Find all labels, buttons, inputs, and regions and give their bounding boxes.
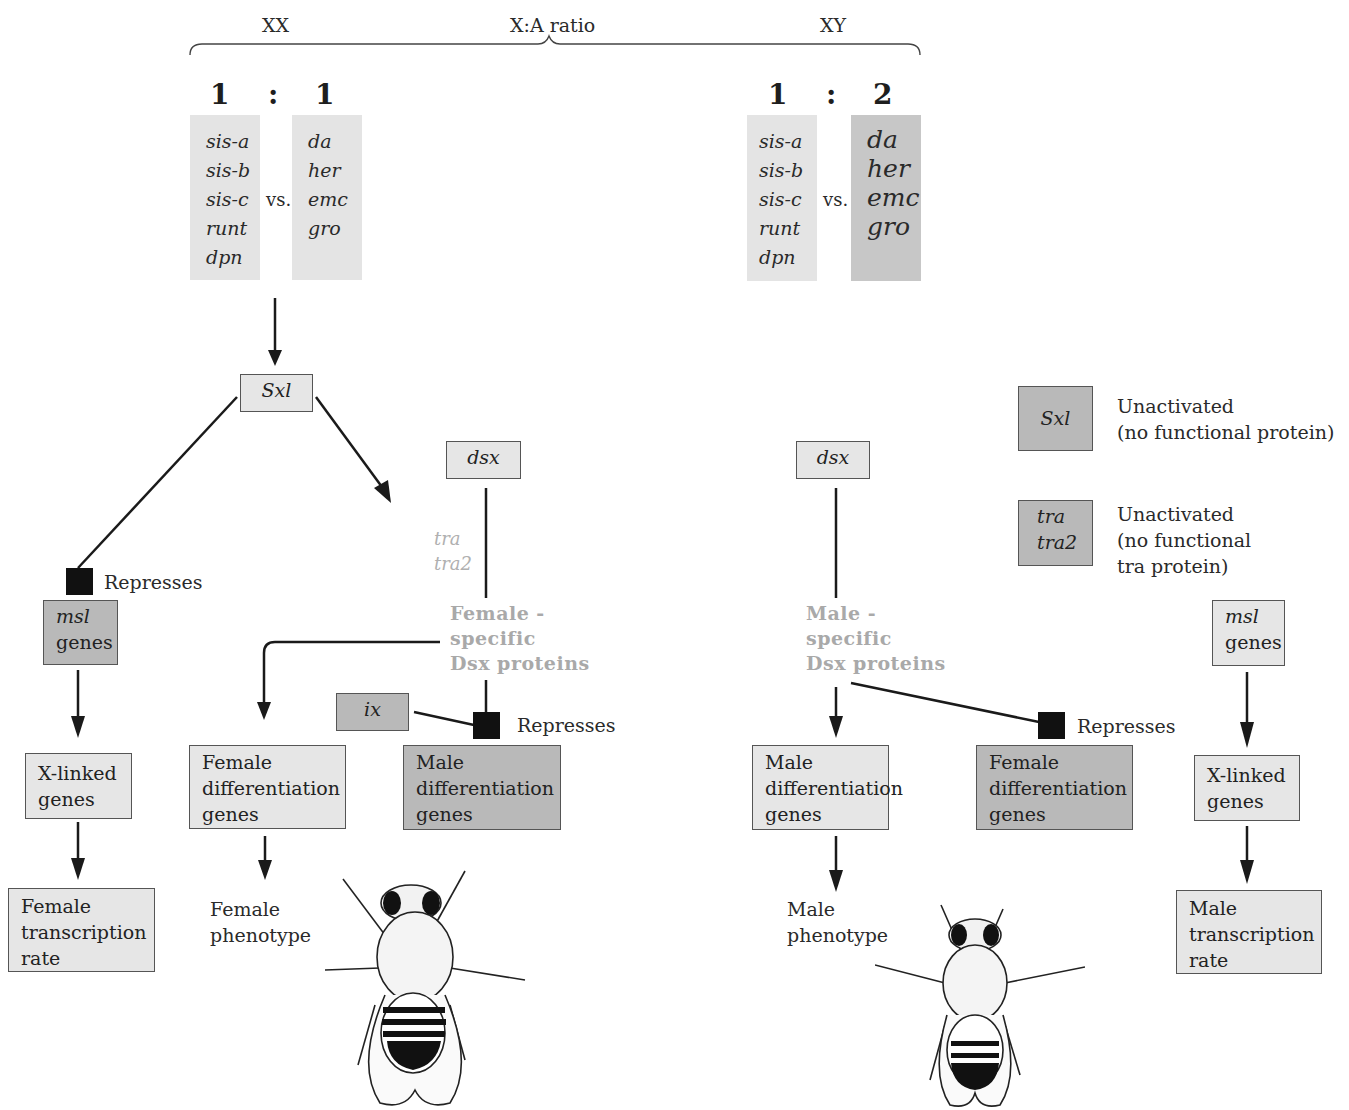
female-transcription-rate-box: Female transcription rate	[8, 888, 155, 972]
ratio-brace	[190, 36, 920, 55]
female-vs: vs.	[266, 189, 291, 210]
ratio-label: X:A ratio	[510, 14, 595, 36]
male-transcription-rate-box: Male transcription rate	[1176, 890, 1322, 974]
male-x-linked-genes-box: X-linked genes	[1194, 755, 1300, 821]
male-path-female-differentiation-genes-box: Female differentiation genes	[976, 745, 1133, 830]
repress-square-icon	[473, 712, 500, 739]
legend-tra-text: Unactivated (no functional tra protein)	[1117, 501, 1251, 579]
male-fly-icon	[875, 895, 1085, 1110]
sxl-box: Sxl	[240, 374, 313, 412]
female-x-linked-genes-box: X-linked genes	[25, 753, 132, 819]
represses-label-msl: Represses	[104, 569, 203, 595]
female-dsx-box: dsx	[446, 441, 521, 479]
female-ratio-left: 1	[210, 78, 229, 111]
female-ratio-right: 1	[315, 78, 334, 111]
repress-square-icon	[66, 568, 93, 595]
represses-label-female-diff: Represses	[1077, 713, 1176, 739]
male-specific-dsx-proteins: Male - specific Dsx proteins	[806, 601, 946, 676]
female-differentiation-genes-box: Female differentiation genes	[189, 745, 346, 829]
legend-sxl-box: Sxl	[1018, 386, 1093, 451]
male-vs: vs.	[823, 189, 848, 210]
female-specific-dsx-proteins: Female - specific Dsx proteins	[450, 601, 590, 676]
male-ratio-left: 1	[768, 78, 787, 111]
male-ratio-right: 2	[873, 78, 892, 111]
male-phenotype-label: Male phenotype	[787, 896, 888, 948]
female-fly-icon	[325, 865, 535, 1110]
male-dsx-box: dsx	[796, 441, 870, 479]
legend-sxl-text: Unactivated (no functional protein)	[1117, 393, 1334, 445]
male-ratio-sep: :	[826, 78, 836, 111]
female-path-male-differentiation-genes-box: Male differentiation genes	[403, 745, 561, 830]
xy-label: XY	[820, 14, 846, 36]
female-denominator-genes: da her emc gro	[292, 115, 362, 280]
tra-label: tra tra2	[434, 526, 472, 576]
male-differentiation-genes-box: Male differentiation genes	[752, 745, 889, 830]
xx-label: XX	[262, 14, 289, 36]
female-phenotype-label: Female phenotype	[210, 896, 311, 948]
legend-tra-box: tra tra2	[1018, 500, 1093, 566]
male-numerator-genes: sis-a sis-b sis-c runt dpn	[747, 115, 817, 281]
female-ratio-sep: :	[268, 78, 278, 111]
male-denominator-genes: da her emc gro	[851, 115, 921, 281]
ix-box: ix	[336, 693, 409, 731]
male-msl-genes-box: msl genes	[1212, 600, 1285, 666]
represses-label-male-diff: Represses	[517, 712, 616, 738]
female-msl-genes-box: msl genes	[43, 600, 118, 665]
female-numerator-genes: sis-a sis-b sis-c runt dpn	[190, 115, 260, 280]
repress-square-icon	[1038, 712, 1065, 739]
